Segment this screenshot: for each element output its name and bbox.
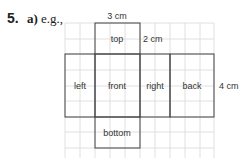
label-top: top bbox=[111, 34, 124, 44]
cube-net-diagram: top left front right back bottom 3 cm 2 … bbox=[0, 0, 246, 158]
label-left: left bbox=[74, 81, 87, 91]
label-back: back bbox=[182, 81, 202, 91]
dimension-depth: 2 cm bbox=[143, 34, 163, 44]
dimension-width: 3 cm bbox=[107, 11, 127, 21]
label-front: front bbox=[108, 81, 127, 91]
label-bottom: bottom bbox=[103, 128, 131, 138]
label-right: right bbox=[146, 81, 164, 91]
dimension-height: 4 cm bbox=[219, 81, 239, 91]
